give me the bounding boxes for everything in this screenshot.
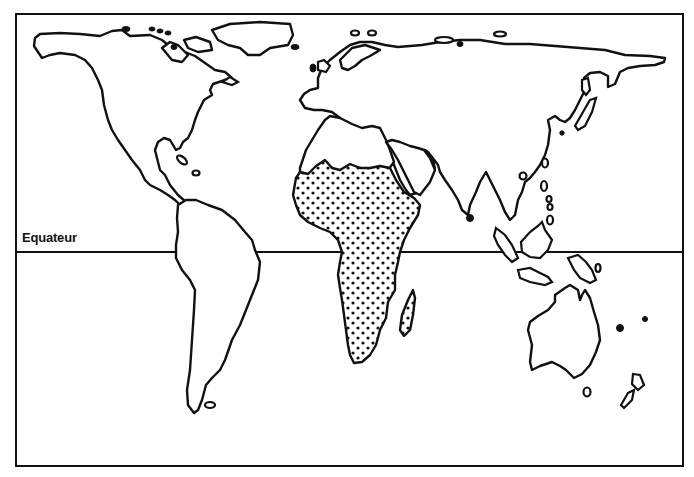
java xyxy=(518,268,552,285)
cuba xyxy=(175,154,188,166)
baffin-island xyxy=(184,37,212,52)
hispaniola xyxy=(193,171,200,176)
kamchatka-island xyxy=(582,78,590,95)
hainan xyxy=(520,173,527,180)
sumatra xyxy=(494,228,518,262)
philippines xyxy=(547,216,553,225)
philippines xyxy=(547,196,552,202)
tasmania xyxy=(584,388,591,397)
taiwan xyxy=(542,159,548,168)
island xyxy=(596,264,601,272)
madagascar xyxy=(400,290,415,336)
new-zealand-south xyxy=(621,390,634,408)
philippines xyxy=(548,204,553,210)
pacific-island xyxy=(643,317,648,322)
svalbard xyxy=(351,31,359,36)
equator-label: Equateur xyxy=(22,230,77,245)
australia xyxy=(528,285,600,378)
arctic-island xyxy=(122,27,130,32)
new-guinea xyxy=(568,255,596,283)
iceland xyxy=(291,45,299,50)
world-map xyxy=(0,0,694,477)
arctic-island xyxy=(457,42,463,47)
novaya-zemlya xyxy=(435,37,453,43)
severnaya-zemlya xyxy=(494,32,506,37)
arctic-island xyxy=(171,45,177,50)
south-america xyxy=(176,200,260,413)
arctic-island xyxy=(165,31,171,35)
north-america xyxy=(34,30,232,205)
japan-island xyxy=(560,131,564,135)
ireland xyxy=(310,64,316,72)
arctic-island xyxy=(149,27,155,31)
new-zealand-north xyxy=(632,374,644,390)
arctic-island xyxy=(157,29,163,33)
svalbard xyxy=(368,31,376,36)
philippines xyxy=(541,181,547,191)
greenland xyxy=(212,22,293,55)
pacific-island xyxy=(617,325,624,332)
sri-lanka xyxy=(467,215,474,222)
falkland-islands xyxy=(205,402,215,408)
